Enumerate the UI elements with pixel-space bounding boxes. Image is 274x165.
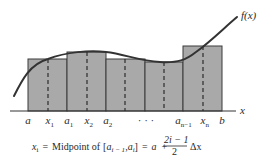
tick-label-9: b [219, 114, 225, 126]
formula-equals-1: = [42, 141, 48, 152]
svg-text:xi=Midpoint of[ai − 1,ai]=a+: xi=Midpoint of[ai − 1,ai]=a+ [31, 141, 168, 154]
tick-label-8: xn [200, 114, 210, 129]
tick-label-2: x1 [45, 114, 55, 129]
tick-label-5: a2 [103, 114, 113, 129]
tick-label-4: x2 [84, 114, 94, 129]
tick-labels: ax1a1x2a2· · ·an−1xnb [25, 114, 225, 129]
tick-label-1: a [25, 114, 31, 126]
midpoint-formula: xi=Midpoint of[ai − 1,ai]=a+ 2i − 1 2 Δx [31, 134, 201, 157]
diagram-canvas: x f(x) ax1a1x2a2· · ·an−1xnb xi=Midpoint… [0, 0, 274, 165]
formula-a1-sub: i − 1 [111, 146, 125, 154]
formula-rhs-a: a [152, 141, 157, 152]
tick-label-3: a1 [64, 114, 74, 129]
x-axis-label: x [239, 104, 245, 116]
tick-label-7: an−1 [175, 114, 192, 129]
formula-delta-x: Δx [190, 141, 201, 152]
riemann-midpoint-diagram: x f(x) ax1a1x2a2· · ·an−1xnb xi=Midpoint… [0, 0, 274, 165]
function-label: f(x) [241, 9, 257, 22]
formula-equals-2: = [142, 141, 148, 152]
formula-bracket-close: ] [135, 141, 138, 152]
tick-label-6: · · · [138, 114, 155, 126]
formula-lhs-sub: i [36, 146, 38, 154]
formula-text: Midpoint of [52, 141, 101, 152]
formula-frac-den: 2 [172, 146, 177, 157]
formula-frac-num: 2i − 1 [164, 134, 189, 145]
